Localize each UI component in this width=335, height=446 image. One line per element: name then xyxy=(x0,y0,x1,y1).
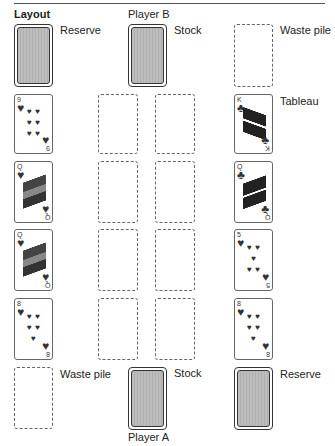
empty-tableau-slot[interactable] xyxy=(155,229,195,291)
tableau-card-9-hearts[interactable]: 9 ♥ ♥♥♥♥♥♥ ♥ 9 xyxy=(14,94,53,154)
empty-tableau-slot[interactable] xyxy=(155,298,195,360)
card-back xyxy=(131,370,164,427)
player-b-waste-pile[interactable] xyxy=(234,24,273,87)
tableau-card-5-hearts[interactable]: 5 ♥ ♥♥♥♥♥ ♥ 5 xyxy=(234,229,273,291)
tableau-card-queen-hearts[interactable]: Q ♥ ♥ Q xyxy=(14,229,53,291)
layout-title: Layout xyxy=(14,8,50,20)
empty-tableau-slot[interactable] xyxy=(98,298,138,360)
player-b-reserve-pile[interactable] xyxy=(14,24,53,87)
top-rule xyxy=(14,3,325,4)
card-pips: ♥♥♥♥♥ xyxy=(243,242,264,276)
card-back xyxy=(237,370,270,427)
card-back xyxy=(17,27,50,84)
waste-pile-label-bottom: Waste pile xyxy=(60,368,111,380)
player-b-label: Player B xyxy=(128,8,170,20)
stock-label-bottom: Stock xyxy=(174,367,202,379)
player-a-reserve-pile[interactable] xyxy=(234,367,273,430)
player-a-waste-pile[interactable] xyxy=(14,367,53,429)
tableau-card-queen-hearts[interactable]: Q ♥ ♥ Q xyxy=(14,161,53,223)
player-b-stock-pile[interactable] xyxy=(128,24,167,87)
tableau-label: Tableau xyxy=(280,95,319,107)
player-a-stock-pile[interactable] xyxy=(128,367,167,430)
card-pips: ♥♥♥♥♥♥ xyxy=(23,107,44,139)
reserve-label-bottom: Reserve xyxy=(280,368,321,380)
card-pips: ♥♥♥♥♥ xyxy=(243,311,264,345)
player-a-label: Player A xyxy=(128,431,169,443)
empty-tableau-slot[interactable] xyxy=(155,94,195,154)
tableau-card-queen-clubs[interactable]: Q ♣ ♣ Q xyxy=(234,161,273,223)
empty-tableau-slot[interactable] xyxy=(155,161,195,223)
empty-tableau-slot[interactable] xyxy=(98,94,138,154)
stock-label-top: Stock xyxy=(174,24,202,36)
card-pips: ♥♥♥♥♥ xyxy=(23,311,44,345)
tableau-card-king-clubs[interactable]: K ♣ ♣ K xyxy=(234,94,273,154)
tableau-card-8-hearts[interactable]: 8 ♥ ♥♥♥♥♥ ♥ 8 xyxy=(234,298,273,360)
card-back xyxy=(131,27,164,84)
empty-tableau-slot[interactable] xyxy=(98,229,138,291)
tableau-card-8-hearts[interactable]: 8 ♥ ♥♥♥♥♥ ♥ 8 xyxy=(14,298,53,360)
waste-pile-label-top: Waste pile xyxy=(280,24,331,36)
empty-tableau-slot[interactable] xyxy=(98,161,138,223)
reserve-label-top: Reserve xyxy=(60,24,101,36)
